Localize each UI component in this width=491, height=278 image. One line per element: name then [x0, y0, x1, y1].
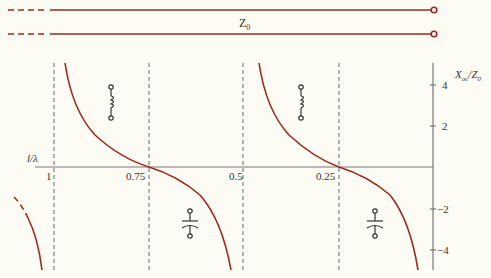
transmission-line: [8, 7, 437, 37]
inductor-icon: [299, 85, 304, 120]
y-tick-4: 4: [442, 79, 448, 91]
capacitor-icon: [367, 209, 383, 238]
curve-left: [28, 218, 42, 270]
y-axis-label: Xoc/Z0: [454, 68, 482, 83]
y-tick-neg4: −4: [437, 244, 449, 256]
x-tick-0.75: 0.75: [126, 170, 146, 182]
x-tick-1: 1: [46, 170, 52, 182]
curve-left-dashed: [14, 197, 28, 218]
y-tick-2: 2: [442, 120, 448, 132]
x-tick-0.25: 0.25: [316, 170, 336, 182]
line-impedance-label: Z0: [239, 16, 250, 32]
y-tick-neg2: −2: [437, 203, 449, 215]
capacitor-icon: [182, 209, 198, 238]
inductor-icon: [109, 85, 114, 120]
x-axis-label: l/λ: [27, 152, 38, 164]
transmission-line-diagram: Z0 4 2 −2 −4 Xoc/Z0 l/λ 1 0.75 0.5 0.25: [0, 0, 491, 278]
x-tick-0.5: 0.5: [229, 170, 243, 182]
axes: [35, 63, 436, 270]
